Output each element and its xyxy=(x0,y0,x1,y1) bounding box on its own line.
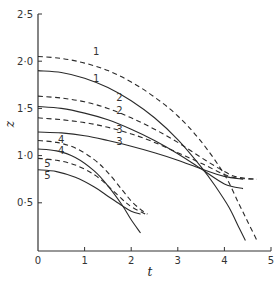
series-5-solid xyxy=(38,170,141,214)
y-tick-label: 0·5 xyxy=(17,197,33,208)
series-2-solid xyxy=(38,107,243,189)
series-1-solid xyxy=(38,71,245,241)
x-axis-label: t xyxy=(148,265,153,279)
axes: 0123450·51·01·52·02·5 xyxy=(17,9,274,267)
line-chart: 0123450·51·01·52·02·5 1122334455 t z xyxy=(0,0,279,281)
x-tick-label: 3 xyxy=(175,255,181,266)
curve-label: 3 xyxy=(116,136,122,147)
y-tick-label: 2·0 xyxy=(17,56,33,67)
series-3-dashed xyxy=(38,118,257,179)
series-1-dashed xyxy=(38,57,257,241)
curve-label: 1 xyxy=(93,73,99,84)
series-group xyxy=(38,57,257,241)
x-tick-label: 0 xyxy=(35,255,41,266)
curve-label: 3 xyxy=(116,124,122,135)
y-tick-label: 2·5 xyxy=(17,9,33,20)
y-tick-label: 1·5 xyxy=(17,103,33,114)
x-tick-label: 2 xyxy=(128,255,134,266)
curve-label: 4 xyxy=(58,145,64,156)
y-axis-label: z xyxy=(3,120,17,128)
x-tick-label: 5 xyxy=(268,255,274,266)
series-2-dashed xyxy=(38,96,257,179)
curve-label: 5 xyxy=(44,170,50,181)
x-tick-label: 1 xyxy=(81,255,87,266)
curve-label: 4 xyxy=(58,134,64,145)
y-tick-label: 1·0 xyxy=(17,150,33,161)
series-4-solid xyxy=(38,149,141,233)
curve-label: 2 xyxy=(116,105,122,116)
curve-label: 1 xyxy=(93,46,99,57)
series-4-dashed xyxy=(38,141,148,215)
x-tick-label: 4 xyxy=(221,255,227,266)
curve-label: 2 xyxy=(116,92,122,103)
series-5-dashed xyxy=(38,158,145,214)
curve-label: 5 xyxy=(44,158,50,169)
